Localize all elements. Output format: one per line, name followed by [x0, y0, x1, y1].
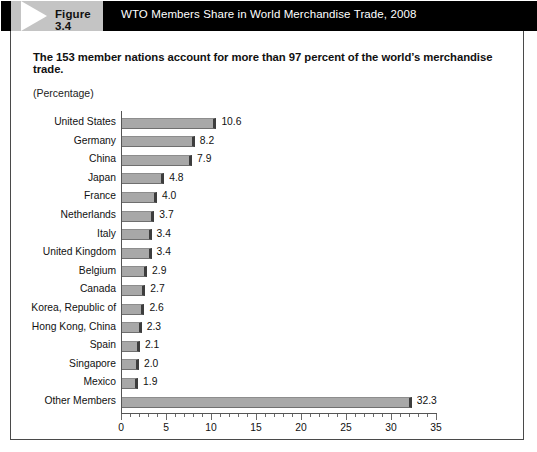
bar-value-label: 2.6 [149, 301, 163, 320]
x-axis-minor-tick [229, 414, 230, 417]
category-label: Other Members [0, 394, 116, 413]
x-axis-major-tick [346, 414, 347, 420]
bar [121, 378, 138, 389]
x-axis-minor-tick [409, 414, 410, 417]
category-label: Hong Kong, China [0, 320, 116, 339]
bar-value-label: 4.0 [162, 189, 176, 208]
x-axis-minor-tick [274, 414, 275, 417]
bar [121, 155, 192, 166]
bar-value-label: 2.3 [147, 320, 161, 339]
x-axis-minor-tick [418, 414, 419, 417]
bar [121, 285, 145, 296]
bar-row: Italy3.4 [11, 227, 525, 246]
x-axis-minor-tick [247, 414, 248, 417]
bar [121, 266, 147, 277]
x-axis-minor-tick [193, 414, 194, 417]
bar-value-label: 1.9 [143, 375, 157, 394]
category-label: China [0, 152, 116, 171]
category-label: Netherlands [0, 208, 116, 227]
x-axis-minor-tick [265, 414, 266, 417]
bar [121, 248, 152, 259]
bar-row: Spain2.1 [11, 338, 525, 357]
x-axis-minor-tick [220, 414, 221, 417]
x-axis-minor-tick [175, 414, 176, 417]
bar-row: Netherlands3.7 [11, 208, 525, 227]
bar-value-label: 4.8 [169, 171, 183, 190]
bar-row: Singapore2.0 [11, 357, 525, 376]
x-axis-minor-tick [427, 414, 428, 417]
bar [121, 211, 154, 222]
x-axis-line [121, 413, 437, 414]
bar-row: Canada2.7 [11, 282, 525, 301]
bar-row: Germany8.2 [11, 134, 525, 153]
x-axis-minor-tick [157, 414, 158, 417]
x-axis-minor-tick [184, 414, 185, 417]
bar-row: United States10.6 [11, 115, 525, 134]
bar-value-label: 2.7 [150, 282, 164, 301]
x-axis-minor-tick [328, 414, 329, 417]
x-axis-minor-tick [319, 414, 320, 417]
bar-row: China7.9 [11, 152, 525, 171]
bar [121, 322, 142, 333]
bar-value-label: 3.4 [157, 245, 171, 264]
x-axis-minor-tick [337, 414, 338, 417]
bar [121, 229, 152, 240]
x-axis-tick-label: 20 [286, 422, 316, 433]
bar-row: Hong Kong, China2.3 [11, 320, 525, 339]
x-axis-tick-label: 5 [151, 422, 181, 433]
x-axis-minor-tick [139, 414, 140, 417]
x-axis-major-tick [166, 414, 167, 420]
x-axis-major-tick [301, 414, 302, 420]
bar-value-label: 2.9 [152, 264, 166, 283]
x-axis-minor-tick [238, 414, 239, 417]
bar-value-label: 7.9 [197, 152, 211, 171]
x-axis-tick-label: 0 [106, 422, 136, 433]
bar [121, 341, 140, 352]
bar-row: Belgium2.9 [11, 264, 525, 283]
category-label: Japan [0, 171, 116, 190]
x-axis-tick-label: 15 [241, 422, 271, 433]
category-label: Italy [0, 227, 116, 246]
bar [121, 118, 216, 129]
x-axis-major-tick [256, 414, 257, 420]
x-axis-minor-tick [400, 414, 401, 417]
bar-value-label: 3.7 [159, 208, 173, 227]
y-axis-line [121, 111, 122, 413]
bar [121, 173, 164, 184]
bar-row: United Kingdom3.4 [11, 245, 525, 264]
x-axis-minor-tick [202, 414, 203, 417]
x-axis-minor-tick [382, 414, 383, 417]
category-label: United Kingdom [0, 245, 116, 264]
x-axis-major-tick [121, 414, 122, 420]
bar-value-label: 10.6 [221, 115, 241, 134]
bar-value-label: 2.0 [144, 357, 158, 376]
x-axis-minor-tick [292, 414, 293, 417]
x-axis-minor-tick [364, 414, 365, 417]
category-label: Germany [0, 134, 116, 153]
x-axis-major-tick [391, 414, 392, 420]
x-axis-major-tick [211, 414, 212, 420]
bar [121, 304, 144, 315]
x-axis-minor-tick [310, 414, 311, 417]
x-axis-minor-tick [373, 414, 374, 417]
category-label: Korea, Republic of [0, 301, 116, 320]
bar-row: Japan4.8 [11, 171, 525, 190]
category-label: Singapore [0, 357, 116, 376]
bar [121, 136, 195, 147]
x-axis-major-tick [436, 414, 437, 420]
category-label: Canada [0, 282, 116, 301]
bar [121, 359, 139, 370]
x-axis-minor-tick [355, 414, 356, 417]
figure-container: Figure 3.4 WTO Members Share in World Me… [10, 2, 524, 440]
category-label: Mexico [0, 375, 116, 394]
bar-value-label: 8.2 [200, 134, 214, 153]
x-axis-tick-label: 30 [376, 422, 406, 433]
bar-row: France4.0 [11, 189, 525, 208]
x-axis-tick-label: 10 [196, 422, 226, 433]
bar-row: Korea, Republic of2.6 [11, 301, 525, 320]
bar-row: Other Members32.3 [11, 394, 525, 413]
bar-row: Mexico1.9 [11, 375, 525, 394]
category-label: Belgium [0, 264, 116, 283]
bar-value-label: 32.3 [417, 394, 437, 413]
bar-value-label: 3.4 [157, 227, 171, 246]
